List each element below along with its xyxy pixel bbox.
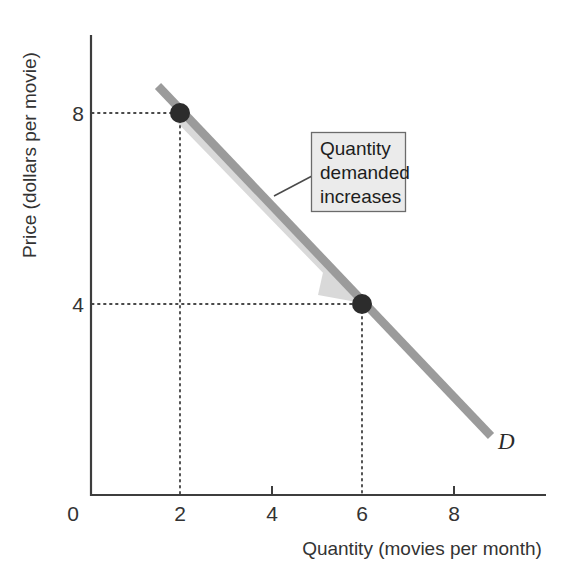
callout-line-2: demanded bbox=[320, 162, 410, 183]
x-tick-label-2: 2 bbox=[174, 502, 186, 525]
demand-curve-label: D bbox=[497, 429, 515, 454]
callout-leader-line bbox=[274, 176, 312, 196]
x-axis-title: Quantity (movies per month) bbox=[302, 538, 542, 559]
data-point-b bbox=[352, 294, 372, 314]
x-tick-label-8: 8 bbox=[448, 502, 460, 525]
callout-line-1: Quantity bbox=[320, 138, 391, 159]
y-tick-label-4: 4 bbox=[72, 293, 84, 316]
callout-line-3: increases bbox=[320, 186, 401, 207]
y-axis-title: Price (dollars per movie) bbox=[19, 52, 40, 258]
data-point-a bbox=[170, 103, 190, 123]
origin-label: 0 bbox=[67, 502, 79, 525]
chart-canvas: Quantity demanded increases 8 4 0 2 4 6 … bbox=[0, 0, 574, 570]
y-tick-label-8: 8 bbox=[72, 102, 84, 125]
x-tick-label-4: 4 bbox=[266, 502, 278, 525]
x-tick-label-6: 6 bbox=[356, 502, 368, 525]
demand-curve-figure: Quantity demanded increases 8 4 0 2 4 6 … bbox=[0, 0, 574, 570]
